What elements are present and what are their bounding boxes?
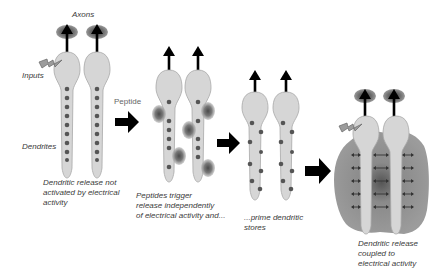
stage-4-neurons bbox=[334, 89, 429, 234]
big-arrow-3 bbox=[305, 158, 331, 184]
peptide-release-halo bbox=[172, 147, 186, 165]
big-arrow-2 bbox=[217, 132, 240, 154]
inputs-label: Inputs bbox=[22, 71, 44, 81]
peptide-release-halo bbox=[201, 159, 215, 177]
big-arrow-1 bbox=[115, 111, 139, 133]
stage-4-caption: Dendritic release coupled to electrical … bbox=[358, 239, 418, 269]
stage-1-caption: Dendritic release not activated by elect… bbox=[43, 178, 119, 208]
stage-2-neurons bbox=[152, 46, 215, 182]
stage-2-caption: Peptides trigger release independently o… bbox=[136, 191, 225, 221]
stage-3-caption: ...prime dendritic stores bbox=[244, 213, 303, 233]
peptide-release-halo bbox=[201, 102, 215, 120]
stage-1-neurons bbox=[39, 24, 110, 178]
stage-3-neurons bbox=[242, 70, 299, 200]
peptide-cloud bbox=[334, 131, 429, 234]
diagram-canvas bbox=[0, 0, 447, 278]
peptide-release-halo bbox=[182, 121, 196, 139]
dendrites-label: Dendrites bbox=[22, 142, 56, 152]
peptide-release-halo bbox=[152, 105, 166, 123]
axons-label: Axons bbox=[72, 10, 94, 20]
peptide-label: Peptide bbox=[114, 97, 141, 107]
